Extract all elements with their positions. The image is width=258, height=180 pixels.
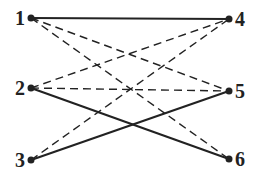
edge-3-4-dashed [31, 19, 229, 160]
node-5-dot [226, 88, 233, 95]
node-6-label: 6 [235, 148, 245, 170]
node-2-label: 2 [15, 77, 25, 99]
bipartite-graph: 123456 [0, 0, 258, 180]
edge-2-6-solid [31, 88, 229, 159]
node-5-label: 5 [235, 80, 245, 102]
edge-3-5-solid [31, 91, 229, 160]
node-4-dot [226, 16, 233, 23]
node-1-dot [28, 15, 35, 22]
edges-group [31, 18, 229, 160]
node-1-label: 1 [15, 7, 25, 29]
node-3-label: 3 [15, 149, 25, 171]
node-2-dot [28, 85, 35, 92]
node-4-label: 4 [235, 8, 245, 30]
edge-1-5-dashed [31, 18, 229, 91]
node-3-dot [28, 157, 35, 164]
node-6-dot [226, 156, 233, 163]
edge-1-4-solid [31, 18, 229, 19]
